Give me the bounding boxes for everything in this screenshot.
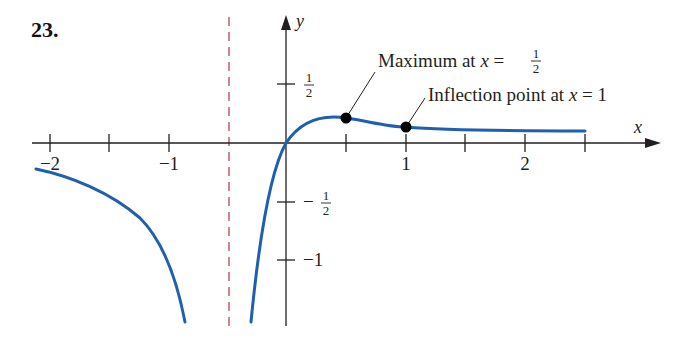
svg-text:1: 1 (323, 188, 330, 203)
svg-text:1: 1 (306, 70, 313, 85)
x-axis-label: x (633, 117, 642, 137)
y-tick-label-neg-half: − 1 2 (303, 188, 331, 218)
x-tick-label-1: 1 (401, 153, 411, 174)
y-tick-label-neg1: −1 (303, 249, 323, 270)
x-tick-label-2: 2 (520, 153, 530, 174)
problem-number: 23. (31, 17, 59, 42)
y-tick-label-half: 1 2 (304, 70, 314, 100)
svg-text:Maximum at x =: Maximum at x = (378, 50, 504, 71)
svg-text:−: − (303, 191, 314, 212)
svg-text:2: 2 (306, 85, 313, 100)
y-axis: y 1 2 − 1 2 −1 (277, 11, 331, 326)
svg-text:2: 2 (323, 203, 330, 218)
x-axis-arrow-icon (645, 138, 661, 148)
svg-text:1: 1 (533, 46, 540, 61)
y-axis-arrow-icon (281, 15, 291, 30)
maximum-annotation: Maximum at x = 1 2 (378, 46, 541, 76)
curve-right-branch (251, 117, 585, 322)
curve-left-branch (36, 169, 185, 322)
inflection-point (401, 122, 412, 133)
x-tick-label-neg1: −1 (159, 153, 179, 174)
maximum-leader-line (346, 72, 375, 118)
svg-text:2: 2 (533, 61, 540, 76)
maximum-point (341, 113, 352, 124)
inflection-annotation: Inflection point at x = 1 (428, 84, 607, 105)
y-axis-label: y (294, 11, 304, 31)
svg-text:Inflection point at x = 1: Inflection point at x = 1 (428, 84, 607, 105)
graph-figure: 23. x −2 −1 1 2 y 1 (0, 0, 687, 347)
x-axis: x −2 −1 1 2 (32, 117, 661, 174)
